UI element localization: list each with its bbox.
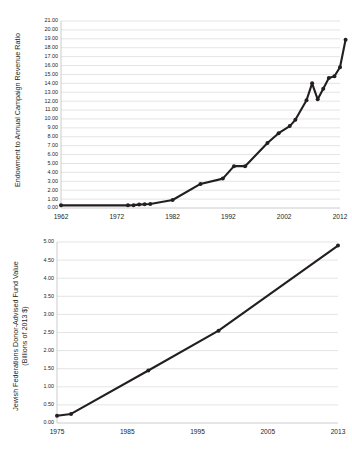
data-point-marker <box>321 87 325 91</box>
data-point-marker <box>327 76 331 80</box>
data-point-marker <box>277 131 281 135</box>
ytick-labels-top: 0.001.002.003.004.005.006.007.008.009.00… <box>45 17 59 210</box>
gridlines-bottom <box>57 242 338 423</box>
data-point-marker <box>137 203 141 207</box>
data-point-marker <box>288 124 292 128</box>
chart-donor-advised-fund-svg: 0.000.501.001.502.002.503.003.504.004.50… <box>0 228 352 456</box>
series-markers-bottom <box>55 244 340 418</box>
y-axis-title-bottom: Jewish Federations Donor-Advised Fund Va… <box>11 261 20 411</box>
data-point-marker <box>59 203 63 207</box>
x-tick-label: 2005 <box>260 428 275 435</box>
y-tick-label: 5.00 <box>44 238 55 244</box>
data-point-marker <box>171 198 175 202</box>
data-point-marker <box>126 203 130 207</box>
y-tick-label: 13.00 <box>45 89 59 95</box>
data-point-marker <box>148 202 152 206</box>
series-markers-top <box>59 38 348 208</box>
y-tick-label: 14.00 <box>45 80 59 86</box>
x-tick-label: 2013 <box>331 428 346 435</box>
x-tick-label: 1985 <box>120 428 135 435</box>
y-tick-label: 3.00 <box>48 178 59 184</box>
series-line-bottom <box>57 246 338 416</box>
y-tick-label: 12.00 <box>45 98 59 104</box>
x-tick-label: 1975 <box>50 428 65 435</box>
y-axis-title-top: Endowment to Annual Campaign Revenue Rat… <box>13 33 22 187</box>
y-tick-label: 16.00 <box>45 62 59 68</box>
y-tick-label: 4.00 <box>44 275 55 281</box>
y-tick-label: 2.00 <box>48 187 59 193</box>
y-tick-label: 2.00 <box>44 347 55 353</box>
y-tick-label: 1.00 <box>48 196 59 202</box>
y-tick-label: 19.00 <box>45 35 59 41</box>
data-point-marker <box>217 329 221 333</box>
data-point-marker <box>243 164 247 168</box>
data-point-marker <box>310 81 314 85</box>
y-axis-title-bottom-line2: (Billions of 2013 $) <box>20 306 29 366</box>
x-tick-label: 2002 <box>277 213 292 220</box>
data-point-marker <box>143 202 147 206</box>
data-series-line <box>57 246 338 416</box>
y-tick-label: 5.00 <box>48 160 59 166</box>
data-point-marker <box>199 182 203 186</box>
xtick-labels-bottom: 19751985199520052013 <box>50 428 346 435</box>
y-tick-label: 1.50 <box>44 365 55 371</box>
data-point-marker <box>344 38 348 42</box>
y-tick-label: 1.00 <box>44 383 55 389</box>
x-tick-label: 1962 <box>54 213 69 220</box>
y-tick-label: 7.00 <box>48 142 59 148</box>
data-point-marker <box>146 369 150 373</box>
y-tick-label: 21.00 <box>45 17 59 23</box>
data-point-marker <box>336 244 340 248</box>
data-point-marker <box>232 164 236 168</box>
x-tick-label: 1982 <box>165 213 180 220</box>
chart-donor-advised-fund: 0.000.501.001.502.002.503.003.504.004.50… <box>0 228 352 456</box>
y-tick-label: 17.00 <box>45 53 59 59</box>
y-tick-label: 3.00 <box>44 311 55 317</box>
y-tick-label: 8.00 <box>48 133 59 139</box>
x-tick-label: 1992 <box>221 213 236 220</box>
y-tick-label: 0.50 <box>44 401 55 407</box>
y-tick-label: 2.50 <box>44 329 55 335</box>
y-tick-label: 4.50 <box>44 257 55 263</box>
data-series-line <box>61 40 346 206</box>
x-tick-label: 2012 <box>333 213 348 220</box>
x-tick-label: 1972 <box>109 213 124 220</box>
y-tick-label: 10.00 <box>45 115 59 121</box>
y-tick-label: 0.00 <box>48 204 59 210</box>
y-tick-label: 15.00 <box>45 71 59 77</box>
y-tick-label: 11.00 <box>45 106 58 112</box>
x-tick-label: 1995 <box>190 428 205 435</box>
y-tick-label: 4.00 <box>48 169 59 175</box>
chart-endowment-ratio: 0.001.002.003.004.005.006.007.008.009.00… <box>0 0 352 228</box>
data-point-marker <box>55 414 59 418</box>
y-tick-label: 20.00 <box>45 26 59 32</box>
data-point-marker <box>338 65 342 69</box>
data-point-marker <box>293 118 297 122</box>
y-tick-label: 0.00 <box>44 419 55 425</box>
data-point-marker <box>305 98 309 102</box>
data-point-marker <box>265 141 269 145</box>
series-line-top <box>61 40 346 206</box>
y-tick-label: 9.00 <box>48 124 59 130</box>
y-tick-label: 3.50 <box>44 293 55 299</box>
data-point-marker <box>132 203 136 207</box>
data-point-marker <box>221 177 225 181</box>
data-point-marker <box>332 74 336 78</box>
figure-page: 0.001.002.003.004.005.006.007.008.009.00… <box>0 0 352 456</box>
data-point-marker <box>316 97 320 101</box>
chart-endowment-ratio-svg: 0.001.002.003.004.005.006.007.008.009.00… <box>0 0 352 228</box>
ytick-labels-bottom: 0.000.501.001.502.002.503.003.504.004.50… <box>44 238 55 425</box>
y-tick-label: 6.00 <box>48 151 59 157</box>
xtick-labels-top: 196219721982199220022012 <box>54 213 348 220</box>
y-tick-label: 18.00 <box>45 44 59 50</box>
data-point-marker <box>69 412 73 416</box>
